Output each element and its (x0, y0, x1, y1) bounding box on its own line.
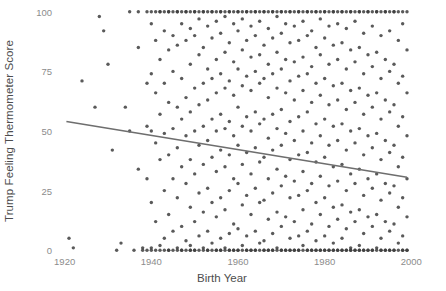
scatter-point (392, 144, 395, 147)
scatter-points-layer (67, 10, 408, 252)
scatter-point (319, 53, 322, 56)
x-axis-tick-1960: 1960 (227, 256, 248, 267)
scatter-point (184, 134, 187, 137)
scatter-point (271, 232, 274, 235)
scatter-point (158, 113, 161, 116)
scatter-point (362, 249, 365, 252)
scatter-point (336, 10, 339, 13)
scatter-point (314, 82, 317, 85)
scatter-point (189, 206, 192, 209)
scatter-point (401, 249, 404, 252)
y-axis-tick-100: 100 (22, 6, 52, 17)
scatter-point (332, 43, 335, 46)
scatter-point (241, 163, 244, 166)
scatter-point (297, 115, 300, 118)
scatter-point (241, 84, 244, 87)
scatter-point (371, 10, 374, 13)
scatter-point (236, 105, 239, 108)
scatter-point (301, 55, 304, 58)
scatter-point (379, 77, 382, 80)
y-axis-tick-labels: 0255075100 (0, 0, 52, 291)
scatter-point (362, 153, 365, 156)
scatter-point (327, 184, 330, 187)
scatter-point (180, 225, 183, 228)
scatter-point (327, 10, 330, 13)
scatter-point (379, 198, 382, 201)
scatter-point (340, 203, 343, 206)
scatter-point (215, 170, 218, 173)
scatter-point (267, 177, 270, 180)
scatter-point (388, 229, 391, 232)
scatter-point (223, 249, 226, 252)
scatter-point (163, 82, 166, 85)
scatter-point (327, 225, 330, 228)
scatter-point (249, 172, 252, 175)
scatter-point (184, 182, 187, 185)
scatter-point (137, 46, 140, 49)
scatter-point (353, 220, 356, 223)
scatter-point (249, 249, 252, 252)
scatter-point (180, 165, 183, 168)
scatter-point (353, 101, 356, 104)
scatter-point (336, 179, 339, 182)
scatter-point (280, 10, 283, 13)
scatter-point (98, 15, 101, 18)
scatter-point (336, 58, 339, 61)
scatter-point (167, 10, 170, 13)
scatter-point (249, 89, 252, 92)
scatter-point (262, 43, 265, 46)
scatter-point (345, 67, 348, 70)
scatter-point (180, 22, 183, 25)
scatter-point (384, 249, 387, 252)
y-axis-tick-50: 50 (22, 126, 52, 137)
scatter-point (245, 39, 248, 42)
scatter-point (362, 194, 365, 197)
scatter-point (366, 53, 369, 56)
scatter-point (245, 115, 248, 118)
scatter-point (336, 22, 339, 25)
scatter-point (358, 10, 361, 13)
scatter-point (310, 29, 313, 32)
scatter-point (371, 24, 374, 27)
scatter-point (388, 29, 391, 32)
scatter-point (288, 10, 291, 13)
scatter-point (323, 77, 326, 80)
scatter-point (353, 249, 356, 252)
scatter-point (345, 148, 348, 151)
scatter-point (189, 63, 192, 66)
scatter-point (254, 110, 257, 113)
scatter-point (392, 249, 395, 252)
scatter-point (397, 125, 400, 128)
scatter-point (223, 51, 226, 54)
scatter-point (340, 249, 343, 252)
scatter-point (202, 82, 205, 85)
scatter-point (388, 10, 391, 13)
scatter-point (167, 153, 170, 156)
scatter-point (206, 67, 209, 70)
scatter-point (362, 72, 365, 75)
scatter-point (193, 129, 196, 132)
scatter-point (293, 139, 296, 142)
scatter-point (150, 201, 153, 204)
x-axis-tick-1980: 1980 (314, 256, 335, 267)
scatter-point (345, 227, 348, 230)
scatter-point (284, 132, 287, 135)
scatter-point (358, 127, 361, 130)
scatter-point (158, 244, 161, 247)
scatter-point (319, 249, 322, 252)
scatter-point (379, 249, 382, 252)
scatter-point (219, 113, 222, 116)
scatter-point (232, 249, 235, 252)
scatter-point (228, 189, 231, 192)
x-axis-tick-2000: 2000 (401, 256, 422, 267)
scatter-point (232, 94, 235, 97)
scatter-point (284, 10, 287, 13)
scatter-point (258, 241, 261, 244)
scatter-point (319, 17, 322, 20)
scatter-point (180, 117, 183, 120)
scatter-point (345, 249, 348, 252)
scatter-point (189, 27, 192, 30)
scatter-point (379, 237, 382, 240)
scatter-point (319, 134, 322, 137)
scatter-point (197, 17, 200, 20)
